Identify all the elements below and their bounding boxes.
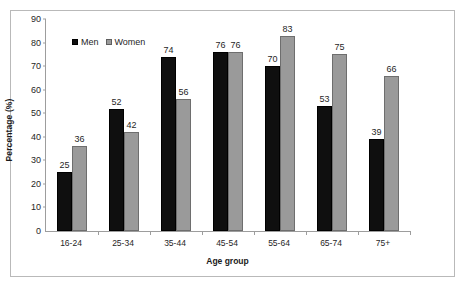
bar-women-35-44 — [176, 99, 191, 231]
y-tick-label: 40 — [31, 132, 41, 142]
bar-group: 7456 — [150, 19, 202, 231]
x-category-label-25-34: 25-34 — [112, 238, 134, 248]
bar-group: 2536 — [46, 19, 98, 231]
legend-label-men: Men — [81, 37, 99, 47]
bar-value-label: 76 — [230, 40, 240, 50]
bar-men-16-24 — [57, 172, 72, 231]
legend-label-women: Women — [115, 37, 146, 47]
bar-value-label: 83 — [282, 24, 292, 34]
legend-entry-women: Women — [106, 37, 146, 47]
bar-group: 3966 — [358, 19, 410, 231]
x-tick-mark — [306, 231, 307, 235]
bar-group: 7676 — [202, 19, 254, 231]
x-category-label-45-54: 45-54 — [216, 238, 238, 248]
bar-value-label: 53 — [319, 94, 329, 104]
x-tick-mark — [358, 231, 359, 235]
x-tick-mark — [98, 231, 99, 235]
y-axis-title: Percentage (%) — [4, 80, 18, 180]
bar-slot: 75 — [332, 19, 347, 231]
bar-slot: 53 — [317, 19, 332, 231]
bar-value-label: 52 — [111, 97, 121, 107]
bar-slot: 66 — [384, 19, 399, 231]
bar-slot: 42 — [124, 19, 139, 231]
bar-value-label: 39 — [371, 127, 381, 137]
bar-group: 7083 — [254, 19, 306, 231]
x-tick-mark — [410, 231, 411, 235]
y-tick-label: 0 — [36, 226, 41, 236]
bar-slot: 76 — [213, 19, 228, 231]
x-category-label-65-74: 65-74 — [320, 238, 342, 248]
y-tick-label: 60 — [31, 85, 41, 95]
chart-figure: Percentage (%) 0102030405060708090253652… — [0, 0, 465, 287]
x-tick-mark — [254, 231, 255, 235]
bar-slot: 70 — [265, 19, 280, 231]
bar-group: 5375 — [306, 19, 358, 231]
bar-women-75+ — [384, 76, 399, 231]
bar-slot: 39 — [369, 19, 384, 231]
bar-value-label: 66 — [386, 64, 396, 74]
bar-men-45-54 — [213, 52, 228, 231]
bar-slot: 56 — [176, 19, 191, 231]
x-tick-mark — [150, 231, 151, 235]
bar-men-65-74 — [317, 106, 332, 231]
x-tick-mark — [202, 231, 203, 235]
bar-women-16-24 — [72, 146, 87, 231]
bar-value-label: 75 — [334, 42, 344, 52]
x-category-label-35-44: 35-44 — [164, 238, 186, 248]
bar-value-label: 74 — [163, 45, 173, 55]
bar-value-label: 25 — [59, 160, 69, 170]
x-axis-title: Age group — [45, 256, 410, 266]
bar-men-75+ — [369, 139, 384, 231]
y-tick-label: 70 — [31, 61, 41, 71]
bar-value-label: 36 — [74, 134, 84, 144]
bar-men-35-44 — [161, 57, 176, 231]
bar-value-label: 56 — [178, 87, 188, 97]
bar-group: 5242 — [98, 19, 150, 231]
bar-slot: 25 — [57, 19, 72, 231]
bar-women-65-74 — [332, 54, 347, 231]
bar-slot: 52 — [109, 19, 124, 231]
bar-women-45-54 — [228, 52, 243, 231]
bar-men-25-34 — [109, 109, 124, 231]
bar-women-55-64 — [280, 36, 295, 232]
y-tick-label: 90 — [31, 14, 41, 24]
bar-women-25-34 — [124, 132, 139, 231]
bar-slot: 36 — [72, 19, 87, 231]
y-tick-label: 30 — [31, 155, 41, 165]
x-category-label-16-24: 16-24 — [60, 238, 82, 248]
y-tick-label: 20 — [31, 179, 41, 189]
x-category-label-55-64: 55-64 — [268, 238, 290, 248]
legend-entry-men: Men — [72, 37, 99, 47]
bar-slot: 83 — [280, 19, 295, 231]
y-tick-label: 80 — [31, 38, 41, 48]
x-category-label-75+: 75+ — [376, 238, 390, 248]
bar-value-label: 70 — [267, 54, 277, 64]
chart-legend: Men Women — [72, 37, 145, 47]
y-tick-label: 50 — [31, 108, 41, 118]
legend-swatch-women-icon — [106, 39, 112, 45]
legend-swatch-men-icon — [72, 39, 78, 45]
bar-slot: 74 — [161, 19, 176, 231]
bar-value-label: 42 — [126, 120, 136, 130]
bar-slot: 76 — [228, 19, 243, 231]
bar-value-label: 76 — [215, 40, 225, 50]
y-tick-label: 10 — [31, 202, 41, 212]
bar-men-55-64 — [265, 66, 280, 231]
plot-area: 0102030405060708090253652427456767670835… — [45, 19, 410, 232]
